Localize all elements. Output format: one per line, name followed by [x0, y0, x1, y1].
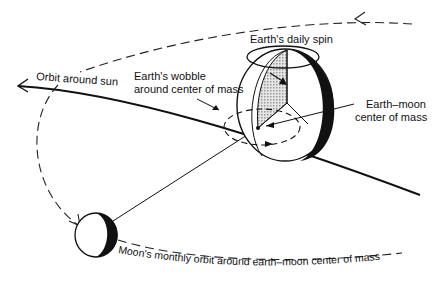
center-of-mass-point — [256, 126, 260, 130]
label-daily-spin: Earth's daily spin — [250, 33, 333, 45]
label-com-2: center of mass — [355, 111, 428, 123]
earth-moon-diagram: Orbit around sun Earth's wobble around c… — [0, 0, 434, 287]
label-moon-orbit: Moon's monthly orbit around earth–moon c… — [118, 243, 381, 267]
label-com-1: Earth–moon — [366, 98, 426, 110]
label-orbit-sun: Orbit around sun — [36, 70, 119, 88]
moon-earth-line — [113, 128, 258, 221]
label-wobble-2: around center of mass — [134, 83, 244, 95]
label-wobble-1: Earth's wobble — [134, 70, 206, 82]
moon — [75, 213, 118, 257]
sun-orbit-path — [18, 86, 420, 195]
